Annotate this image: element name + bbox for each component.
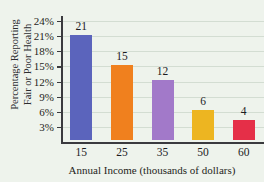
bar-chart: Percentage Reporting Fair or Poor Health… <box>0 0 264 182</box>
x-axis-tick-label: 25 <box>116 146 128 158</box>
bar-value-label: 21 <box>76 20 88 32</box>
bar: 460 <box>233 120 255 140</box>
x-axis-tick-label: 60 <box>238 146 250 158</box>
bar: 1235 <box>152 80 174 140</box>
x-axis-tick-label: 50 <box>197 146 209 158</box>
bar-value-label: 12 <box>157 65 169 77</box>
y-axis-tick-label: 24% <box>34 15 54 27</box>
x-axis-tick-label: 15 <box>76 146 88 158</box>
x-axis-line <box>61 142 264 144</box>
y-axis-tick-label: 6% <box>39 106 54 118</box>
gridline <box>61 21 264 22</box>
bar: 2115 <box>70 35 92 141</box>
bar-value-label: 15 <box>116 50 128 62</box>
y-axis-tick-label: 12% <box>34 76 54 88</box>
y-axis-tick-label: 3% <box>39 121 54 133</box>
y-axis-line <box>61 16 63 143</box>
bar: 650 <box>192 110 214 140</box>
bar: 1525 <box>111 65 133 141</box>
y-axis-title-line-2: Fair or Poor Health <box>21 0 34 130</box>
x-axis-title: Annual Income (thousands of dollars) <box>40 164 264 176</box>
y-axis-title: Percentage Reporting Fair or Poor Health <box>9 0 34 130</box>
bar-value-label: 6 <box>200 95 206 107</box>
y-axis-tick-label: 9% <box>39 91 54 103</box>
plot-area: 3%6%9%12%15%18%21%24% 211515251235650460 <box>61 16 264 142</box>
y-axis-title-line-1: Percentage Reporting <box>9 0 22 130</box>
x-axis-tick-label: 35 <box>157 146 169 158</box>
bar-value-label: 4 <box>241 105 247 117</box>
y-axis-tick-label: 21% <box>34 30 54 42</box>
y-axis-tick-label: 18% <box>34 45 54 57</box>
y-axis-tick-label: 15% <box>34 60 54 72</box>
